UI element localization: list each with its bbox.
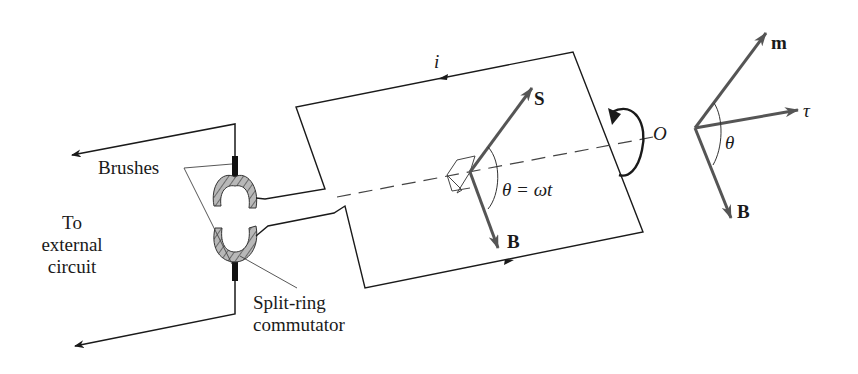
torque-vector-diagram bbox=[695, 33, 798, 218]
vector-tau-arrow bbox=[695, 110, 798, 128]
label-external-circuit: To external circuit bbox=[30, 213, 114, 276]
label-theta: θ bbox=[725, 133, 734, 152]
label-vector-b-right: B bbox=[737, 202, 750, 221]
label-commutator-line1: Split-ring bbox=[253, 293, 345, 312]
label-vector-tau: τ bbox=[803, 101, 810, 120]
rotation-axis bbox=[337, 137, 653, 197]
label-vector-s: S bbox=[534, 89, 545, 108]
vector-s-arrow bbox=[470, 88, 532, 172]
loop-vectors bbox=[470, 88, 532, 248]
label-commutator: Split-ring commutator bbox=[253, 293, 345, 334]
label-brushes: Brushes bbox=[98, 158, 159, 177]
label-commutator-line2: commutator bbox=[253, 315, 345, 334]
label-theta-omega-t: θ = ωt bbox=[502, 180, 552, 199]
motor-diagram: Brushes To external circuit Split-ring c… bbox=[0, 0, 858, 374]
split-ring-commutator bbox=[213, 175, 257, 262]
label-axis-o: O bbox=[653, 124, 667, 143]
diagram-graphics bbox=[0, 0, 858, 374]
label-external-line1: To bbox=[30, 213, 114, 232]
label-vector-b: B bbox=[507, 232, 520, 251]
label-vector-m: m bbox=[771, 33, 787, 52]
vector-m-arrow bbox=[695, 33, 766, 128]
vector-b-arrow bbox=[470, 172, 498, 248]
label-external-line3: circuit bbox=[30, 257, 114, 276]
label-external-line2: external bbox=[30, 235, 114, 254]
label-current-i: i bbox=[434, 52, 439, 71]
angle-arc-right bbox=[713, 103, 721, 165]
angle-arc bbox=[488, 147, 498, 209]
loop-coil bbox=[256, 52, 643, 288]
current-arrows bbox=[438, 74, 514, 265]
